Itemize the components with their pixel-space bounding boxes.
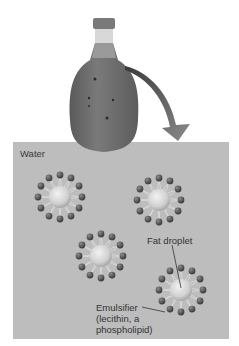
phospholipid-head [145, 216, 152, 223]
phospholipid-head [38, 183, 45, 190]
phospholipid-head [76, 205, 83, 212]
emulsifier-label-line1: Emulsifier [96, 303, 138, 314]
phospholipid-head [145, 178, 152, 185]
micelle [156, 265, 207, 316]
phospholipid-head [35, 194, 42, 201]
phospholipid-head [76, 183, 83, 190]
phospholipid-head [156, 175, 163, 182]
phospholipid-head [189, 306, 196, 313]
micelle [134, 175, 185, 226]
phospholipid-head [117, 242, 124, 249]
phospholipid-head [46, 213, 53, 220]
phospholipid-head [68, 213, 75, 220]
water-label: Water [20, 148, 45, 159]
fat-droplet-label: Fat droplet [147, 236, 192, 247]
phospholipid-head [178, 197, 185, 204]
phospholipid-head [57, 216, 64, 223]
phospholipid-head [38, 205, 45, 212]
fat-droplet [90, 245, 112, 267]
micelle [76, 231, 127, 282]
phospholipid-head [79, 242, 86, 249]
phospholipid-head [200, 287, 207, 294]
micelle [35, 172, 86, 223]
phospholipid-head [167, 216, 174, 223]
fat-droplet [170, 279, 192, 301]
diagram-graphics [0, 0, 239, 346]
phospholipid-head [79, 264, 86, 271]
emulsifier-label-line2: (lecithin, a [96, 314, 139, 325]
phospholipid-head [175, 208, 182, 215]
phospholipid-head [98, 275, 105, 282]
phospholipid-head [175, 186, 182, 193]
emulsifier-pointer [142, 307, 165, 312]
phospholipid-head [178, 265, 185, 272]
phospholipid-head [197, 276, 204, 283]
phospholipid-head [159, 298, 166, 305]
phospholipid-head [178, 309, 185, 316]
phospholipid-head [167, 178, 174, 185]
phospholipid-head [87, 234, 94, 241]
phospholipid-head [76, 253, 83, 260]
salad-dressing-bottle-icon [70, 18, 139, 152]
phospholipid-head [109, 272, 116, 279]
phospholipid-head [68, 175, 75, 182]
phospholipid-head [109, 234, 116, 241]
phospholipid-head [98, 231, 105, 238]
phospholipid-head [120, 253, 127, 260]
phospholipid-head [79, 194, 86, 201]
phospholipid-head [137, 186, 144, 193]
phospholipid-head [117, 264, 124, 271]
fat-droplet [148, 189, 170, 211]
phospholipid-head [156, 219, 163, 226]
phospholipid-head [134, 197, 141, 204]
phospholipid-head [167, 268, 174, 275]
emulsifier-label-line3: phospholipid) [96, 325, 153, 336]
phospholipid-head [46, 175, 53, 182]
phospholipid-head [197, 298, 204, 305]
phospholipid-head [159, 276, 166, 283]
phospholipid-head [57, 172, 64, 179]
phospholipid-head [137, 208, 144, 215]
phospholipid-head [156, 287, 163, 294]
phospholipid-head [189, 268, 196, 275]
fat-droplet [49, 186, 71, 208]
phospholipid-head [87, 272, 94, 279]
phospholipid-head [167, 306, 174, 313]
